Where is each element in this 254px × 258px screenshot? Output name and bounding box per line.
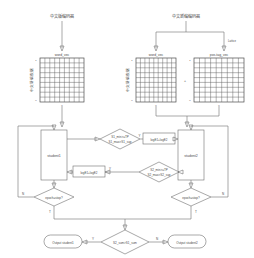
arrow-left-matrix-down: [60, 106, 64, 127]
matrix-left-top-index: 1: [35, 59, 37, 62]
matrix-left-bottom-index: n: [35, 99, 37, 102]
merge-right-matrices: [156, 106, 219, 127]
final-decision-label: S2_sum>S1_sum: [113, 241, 137, 245]
matrix-rw-col-index: n: [155, 104, 157, 107]
matrix-rw-side-label: 中文新编数据: [125, 68, 130, 92]
edge-label-true-right: T: [195, 210, 197, 214]
output-student1-label: Output student1: [52, 241, 74, 245]
branch-right-title: [154, 21, 226, 51]
matrix-right-word-vec: word_vec 1 n n 中文新编数据: [125, 53, 176, 107]
matrix-left-side-label-group: 中文新编数据: [29, 68, 34, 92]
edge-label-no-left: N: [22, 192, 24, 196]
matrix-left-word-vec: word_vec 1 n n: [35, 53, 84, 107]
edge-label-yes-bottom: Y: [109, 167, 111, 171]
edge-student1-to-stop-left: [52, 180, 56, 188]
cond-top-line2: S1_max>S1_sup: [109, 140, 132, 144]
matrix-rp-label: pos-tag_vec: [210, 53, 229, 57]
student1-label: student1: [47, 154, 60, 158]
title-right: 中文新编编码器: [172, 13, 200, 19]
cond-bottom-line1: S2_min>=TP: [150, 168, 168, 172]
loss-left-label: logE1+logE2: [80, 171, 97, 175]
matrix-rp-bottom-index: n: [189, 99, 191, 102]
arrow-left-title-to-matrix: [60, 21, 64, 51]
edge-final-no-to-output2: N: [149, 237, 168, 244]
matrix-rp-top-index: 1: [189, 59, 191, 62]
matrix-rw-top-index: 1: [131, 59, 133, 62]
concat-plus-symbol: +: [184, 79, 186, 83]
edge-label-yes-top: Y: [138, 134, 140, 138]
cond-bottom-line2: S2_max>S2_sup: [148, 173, 171, 177]
edge-label-no-right: N: [222, 192, 224, 196]
output-student2-label: Output student2: [176, 241, 198, 245]
flowchart-canvas: 中文版编码器 中文新编编码器 Lattice word_vec: [0, 0, 254, 258]
cond-top-line1: S1_min>=TP: [111, 135, 129, 139]
edge-stop-right-true: T: [125, 206, 197, 219]
matrix-rw-label: word_vec: [149, 53, 164, 57]
matrix-left-label: word_vec: [55, 53, 70, 57]
stop-right-label: epoch=stop?: [182, 196, 200, 200]
matrix-rp-col-index: n: [218, 104, 220, 107]
student2-label: student2: [184, 154, 197, 158]
edge-stop-left-true: T: [49, 206, 125, 219]
flowchart-svg: 中文版编码器 中文新编编码器 Lattice word_vec: [0, 0, 254, 258]
matrix-right-pos-tag-vec: pos-tag_vec 1 n n: [189, 53, 244, 107]
edge-loss-left-to-student1: [67, 170, 73, 174]
edge-label-final-yes: Y: [92, 237, 94, 241]
loss-right-label: logE1+logE2: [150, 138, 167, 142]
edge-cond-bottom-to-loss-left: Y: [105, 167, 139, 174]
edge-final-yes-to-output1: Y: [82, 237, 101, 244]
stop-left-label: epoch=stop?: [45, 196, 63, 200]
matrix-left-col-index: n: [61, 104, 63, 107]
title-left: 中文版编码器: [50, 13, 74, 19]
edge-student2-to-stop-right: [189, 180, 193, 188]
edge-student1-to-cond-top: [67, 137, 100, 141]
matrix-rw-bottom-index: n: [131, 99, 133, 102]
matrix-left-side-label: 中文新编数据: [29, 68, 34, 92]
branch-label-lattice: Lattice: [228, 39, 236, 43]
edge-label-final-no: N: [156, 237, 158, 241]
edge-label-true-left: T: [49, 210, 51, 214]
edge-merge-to-final: [123, 219, 127, 230]
